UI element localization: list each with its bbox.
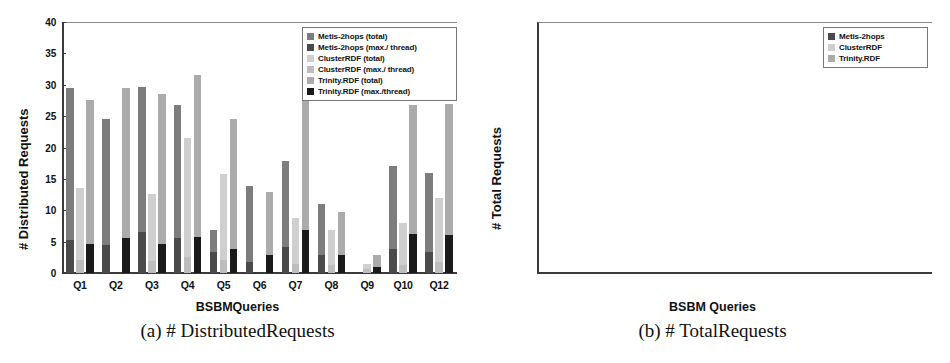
legend-item[interactable]: Trinity.RDF — [828, 53, 922, 64]
legend-swatch-icon — [828, 44, 835, 51]
x-axis-label-right: BSBM Queries — [475, 300, 950, 314]
bar-segment-max-thread — [230, 249, 238, 273]
bar-segment-max-thread — [338, 255, 346, 273]
legend-item[interactable]: ClusterRDF (total) — [307, 53, 451, 64]
legend-label: Metis-2hops (total) — [318, 32, 387, 41]
legend-item[interactable]: Trinity.RDF (max./thread) — [307, 86, 451, 97]
legend-label: Metis-2hops — [839, 32, 885, 41]
y-tick-mark — [62, 273, 66, 274]
bar-segment-max-thread — [435, 262, 443, 273]
bar-segment-max-thread — [148, 261, 156, 273]
legend-swatch-icon — [307, 88, 314, 95]
bar-segment-max-thread — [292, 264, 300, 273]
legend-label: ClusterRDF (max./ thread) — [318, 65, 414, 74]
panel-total-requests: 0.41241020401002004001k2k4k Q1Q2Q3Q4Q5Q6… — [475, 0, 950, 363]
legend-swatch-icon — [307, 44, 314, 51]
bar-segment-max-thread — [86, 244, 94, 273]
caption-right: (b) # TotalRequests — [475, 320, 950, 342]
y-tick-label: 0 — [20, 268, 56, 279]
bar-segment-max-thread — [266, 255, 274, 273]
legend-swatch-icon — [307, 33, 314, 40]
bar-segment-max-thread — [318, 255, 326, 273]
bar-segment-max-thread — [399, 265, 407, 273]
bar-segment-max-thread — [220, 260, 228, 273]
bar-segment-max-thread — [184, 257, 192, 273]
bar-segment-max-thread — [445, 235, 453, 273]
bar-segment-max-thread — [373, 267, 381, 273]
x-axis-right — [537, 272, 932, 274]
legend-label: Trinity.RDF (max./thread) — [318, 87, 410, 96]
bar-segment-max-thread — [66, 240, 74, 273]
legend-label: Trinity.RDF (total) — [318, 76, 383, 85]
caption-left: (a) # DistributedRequests — [0, 320, 475, 342]
bar-segment-max-thread — [102, 245, 110, 273]
bar-segment-max-thread — [174, 238, 182, 273]
bar-segment-max-thread — [302, 230, 310, 273]
bar — [220, 174, 228, 273]
bar — [246, 186, 254, 273]
legend-swatch-icon — [307, 77, 314, 84]
legend-swatch-icon — [307, 66, 314, 73]
legend-left[interactable]: Metis-2hops (total)Metis-2hops (max./ th… — [302, 27, 457, 101]
bar-segment-max-thread — [158, 244, 166, 273]
legend-item[interactable]: Trinity.RDF (total) — [307, 75, 451, 86]
x-tick-label: Q12 — [417, 279, 461, 291]
y-tick-label: 35 — [20, 48, 56, 59]
legend-label: ClusterRDF — [839, 43, 882, 52]
bar-segment-max-thread — [138, 232, 146, 273]
legend-swatch-icon — [307, 55, 314, 62]
legend-item[interactable]: Metis-2hops — [828, 31, 922, 42]
legend-item[interactable]: ClusterRDF — [828, 42, 922, 53]
legend-swatch-icon — [828, 55, 835, 62]
y-tick-mark — [62, 85, 66, 86]
x-axis-label-left: BSBMQueries — [0, 300, 475, 314]
bar-segment-max-thread — [328, 265, 336, 273]
legend-item[interactable]: Metis-2hops (total) — [307, 31, 451, 42]
y-tick-mark — [62, 22, 66, 23]
bar-segment-max-thread — [409, 234, 417, 273]
legend-label: ClusterRDF (total) — [318, 54, 385, 63]
y-tick-mark — [62, 53, 66, 54]
bar-segment-max-thread — [210, 252, 218, 273]
legend-label: Trinity.RDF — [839, 54, 880, 63]
legend-swatch-icon — [828, 33, 835, 40]
legend-right[interactable]: Metis-2hopsClusterRDFTrinity.RDF — [823, 27, 928, 68]
bar-segment-max-thread — [282, 247, 290, 273]
bar-segment-max-thread — [363, 269, 371, 273]
bar-segment-max-thread — [194, 237, 202, 273]
legend-item[interactable]: ClusterRDF (max./ thread) — [307, 64, 451, 75]
y-axis-label-left: # Distributed Requests — [16, 108, 31, 250]
y-tick-label: 30 — [20, 79, 56, 90]
bar-segment-max-thread — [246, 262, 254, 273]
bar-segment-max-thread — [389, 249, 397, 273]
y-tick-label: 40 — [20, 17, 56, 28]
bar-segment-max-thread — [76, 260, 84, 273]
bar — [184, 138, 192, 273]
bar-segment-max-thread — [425, 252, 433, 273]
bar-segment-max-thread — [122, 238, 130, 273]
figure-container: 0510152025303540 Q1Q2Q3Q4Q5Q6Q7Q8Q9Q10Q1… — [0, 0, 950, 363]
y-axis-label-right: # Total Requests — [489, 127, 504, 230]
panel-distributed-requests: 0510152025303540 Q1Q2Q3Q4Q5Q6Q7Q8Q9Q10Q1… — [0, 0, 475, 363]
legend-label: Metis-2hops (max./ thread) — [318, 43, 417, 52]
legend-item[interactable]: Metis-2hops (max./ thread) — [307, 42, 451, 53]
